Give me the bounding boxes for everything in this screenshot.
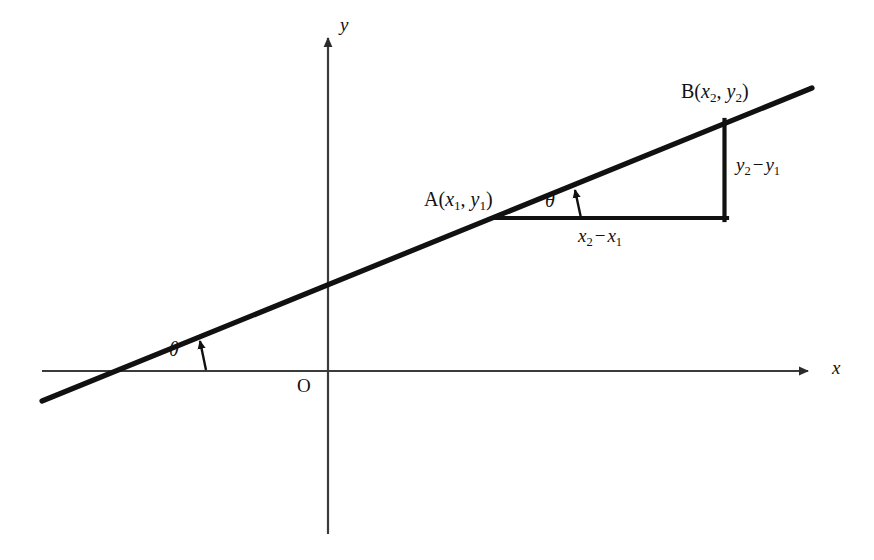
- point-a-x-var: x: [445, 188, 454, 210]
- point-a-comma: ,: [461, 188, 471, 210]
- run-second-var: x: [607, 225, 615, 246]
- run-second-sub: 1: [616, 235, 622, 249]
- rise-first-sub: 2: [744, 164, 750, 178]
- run-operator: −: [593, 225, 608, 246]
- point-a-label: A(x1, y1): [424, 189, 493, 212]
- point-b-close-paren: ): [742, 80, 749, 102]
- point-a-x-sub: 1: [454, 198, 461, 213]
- origin-label: O: [297, 376, 311, 395]
- figure-canvas: y x O B(x2, y2) A(x1, y1) x2−x1 y2−y1 θ …: [0, 0, 874, 560]
- point-b-x-sub: 2: [710, 90, 717, 105]
- theta-arrow-at-a: [575, 190, 581, 218]
- theta-arrow-at-x-axis: [200, 341, 206, 370]
- rise-operator: −: [751, 154, 766, 175]
- straight-line: [42, 88, 812, 401]
- point-b-label: B(x2, y2): [681, 81, 749, 104]
- rise-label: y2−y1: [736, 155, 780, 177]
- theta-label-at-a: θ: [545, 190, 555, 210]
- point-b-name: B: [681, 80, 694, 102]
- point-a-y-var: y: [471, 188, 480, 210]
- run-label: x2−x1: [578, 226, 622, 248]
- point-b-y-sub: 2: [735, 90, 742, 105]
- theta-label-at-x-axis: θ: [169, 339, 179, 359]
- point-a-close-paren: ): [486, 188, 493, 210]
- rise-second-sub: 1: [774, 164, 780, 178]
- rise-second-var: y: [765, 154, 773, 175]
- point-b-comma: ,: [717, 80, 727, 102]
- run-first-sub: 2: [586, 235, 592, 249]
- point-a-name: A: [424, 188, 438, 210]
- y-axis-label: y: [340, 15, 348, 34]
- x-axis-label: x: [832, 358, 840, 377]
- point-b-open-paren: (: [694, 80, 701, 102]
- point-b-x-var: x: [701, 80, 710, 102]
